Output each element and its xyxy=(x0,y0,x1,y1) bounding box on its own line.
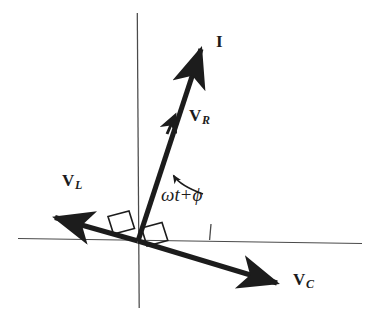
phasor-i-vr xyxy=(138,49,201,241)
vertical-axis xyxy=(137,13,139,308)
label-phase-angle: ωt+ϕ xyxy=(161,185,202,204)
phasor-vl xyxy=(55,218,138,242)
label-phase-angle-t: t xyxy=(174,184,179,205)
label-current-I: I xyxy=(216,33,223,52)
label-phase-angle-plus: + xyxy=(180,184,193,205)
label-capacitor-voltage-sub: C xyxy=(306,277,315,291)
phasor-vc xyxy=(138,241,277,283)
label-inductor-voltage-sub: L xyxy=(75,178,83,192)
label-inductor-voltage-VL: VL xyxy=(62,172,82,191)
phasor-vl-shaft xyxy=(55,218,138,242)
axes-group xyxy=(18,13,362,308)
horizontal-axis xyxy=(18,239,362,244)
label-phase-angle-omega: ω xyxy=(161,184,174,205)
label-current-sub xyxy=(223,39,224,53)
label-resistor-voltage-base: V xyxy=(189,106,202,125)
label-inductor-voltage-base: V xyxy=(62,171,75,190)
phasor-vc-shaft xyxy=(138,241,277,283)
phase-angle-axis-tick xyxy=(210,224,211,240)
label-current-base: I xyxy=(216,32,223,51)
label-resistor-voltage-VR: VR xyxy=(189,107,210,126)
label-resistor-voltage-sub: R xyxy=(202,113,211,127)
right-angle-marker-left xyxy=(108,211,135,234)
phasor-diagram-figure: I VR VL VC ωt+ϕ xyxy=(0,0,369,326)
label-phase-angle-phi: ϕ xyxy=(192,184,202,205)
phasor-i-shaft xyxy=(138,49,201,241)
label-capacitor-voltage-base: V xyxy=(293,270,306,289)
label-capacitor-voltage-VC: VC xyxy=(293,271,314,290)
